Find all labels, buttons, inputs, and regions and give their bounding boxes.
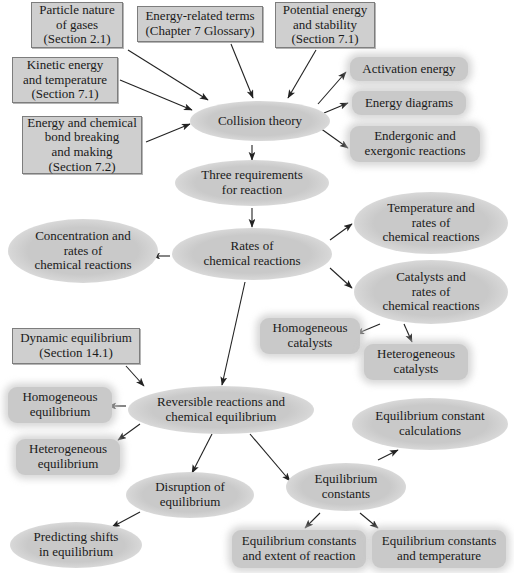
arrow-reversible_reactions-to-disruption_equilibrium: [192, 434, 212, 473]
arrow-equilibrium_constants-to-constants_extent: [305, 513, 320, 528]
node-collision_theory[interactable]: Collision theory: [190, 101, 330, 141]
node-three_requirements[interactable]: Three requirementsfor reaction: [175, 160, 329, 206]
node-catalysts_rates[interactable]: Catalysts andrates ofchemical reactions: [354, 260, 508, 324]
node-predicting_shifts[interactable]: Predicting shiftsin equilibrium: [10, 522, 142, 568]
arrow-energy_terms-to-collision_theory: [231, 44, 253, 98]
node-label: Homogeneousequilibrium: [18, 390, 101, 419]
node-endergonic_exergonic[interactable]: Endergonic andexergonic reactions: [350, 126, 480, 162]
node-label: Rates ofchemical reactions: [199, 239, 304, 268]
node-particle_nature[interactable]: Particle natureof gases(Section 2.1): [31, 2, 123, 48]
concept-map-diagram: Particle natureof gases(Section 2.1)Ener…: [0, 0, 514, 573]
node-activation_energy[interactable]: Activation energy: [350, 57, 468, 81]
arrow-collision_theory-to-activation_energy: [318, 72, 346, 104]
arrow-kinetic_energy-to-collision_theory: [120, 80, 192, 110]
node-temperature_rates[interactable]: Temperature andrates ofchemical reaction…: [354, 192, 508, 254]
node-label: Equilibrium constantsand temperature: [378, 534, 500, 563]
node-label: Activation energy: [358, 62, 459, 77]
node-label: Homogeneouscatalysts: [268, 321, 351, 350]
node-concentration_rates[interactable]: Concentration andrates ofchemical reacti…: [8, 219, 158, 283]
node-label: Temperature andrates ofchemical reaction…: [378, 201, 483, 245]
node-label: Endergonic andexergonic reactions: [360, 129, 469, 158]
arrow-reversible_reactions-to-heterogeneous_equilibrium: [118, 424, 140, 440]
node-label: Equilibriumconstants: [311, 472, 382, 501]
arrow-disruption_equilibrium-to-predicting_shifts: [112, 512, 140, 527]
node-label: Three requirementsfor reaction: [197, 168, 306, 197]
arrow-reversible_reactions-to-equilibrium_constants: [250, 434, 290, 481]
node-label: Energy-related terms(Chapter 7 Glossary): [141, 9, 258, 38]
node-label: Equilibrium constantsand extent of react…: [238, 534, 360, 563]
node-label: Energy and chemicalbond breakingand maki…: [23, 116, 141, 174]
node-constants_extent[interactable]: Equilibrium constantsand extent of react…: [232, 530, 366, 568]
node-label: Disruption ofequilibrium: [151, 480, 229, 509]
node-label: Reversible reactions andchemical equilib…: [153, 395, 289, 424]
node-label: Energy diagrams: [361, 96, 457, 111]
arrow-equilibrium_constants-to-constants_temperature: [360, 513, 378, 528]
node-label: Potential energyand stability(Section 7.…: [279, 3, 372, 47]
arrow-catalysts_rates-to-heterogeneous_catalysts: [404, 324, 412, 342]
node-label: Equilibrium constantcalculations: [371, 409, 488, 438]
node-label: Heterogeneousequilibrium: [25, 442, 111, 471]
arrow-collision_theory-to-energy_diagrams: [324, 103, 348, 113]
node-reversible_reactions[interactable]: Reversible reactions andchemical equilib…: [128, 386, 314, 434]
node-disruption_equilibrium[interactable]: Disruption ofequilibrium: [126, 472, 254, 518]
node-label: Concentration andrates ofchemical reacti…: [30, 229, 135, 273]
arrow-collision_theory-to-endergonic_exergonic: [320, 128, 348, 148]
node-constants_temperature[interactable]: Equilibrium constantsand temperature: [372, 530, 506, 568]
node-energy_bond[interactable]: Energy and chemicalbond breakingand maki…: [22, 116, 142, 174]
node-label: Particle natureof gases(Section 2.1): [35, 3, 118, 47]
node-equilibrium_constants[interactable]: Equilibriumconstants: [286, 463, 406, 511]
arrow-particle_nature-to-collision_theory: [128, 50, 208, 100]
arrow-rates_of_reactions-to-catalysts_rates: [330, 268, 352, 288]
node-label: Catalysts andrates ofchemical reactions: [378, 270, 483, 314]
node-kinetic_energy[interactable]: Kinetic energyand temperature(Section 7.…: [12, 57, 118, 103]
arrow-energy_bond-to-collision_theory: [146, 124, 190, 142]
node-heterogeneous_catalysts[interactable]: Heterogeneouscatalysts: [364, 344, 468, 380]
node-energy_terms[interactable]: Energy-related terms(Chapter 7 Glossary): [137, 6, 263, 42]
arrow-rates_of_reactions-to-reversible_reactions: [222, 282, 245, 385]
arrow-dynamic_equilibrium-to-reversible_reactions: [126, 366, 144, 386]
node-equilibrium_constant_calculations[interactable]: Equilibrium constantcalculations: [352, 398, 508, 450]
node-label: Predicting shiftsin equilibrium: [30, 530, 123, 559]
node-rates_of_reactions[interactable]: Rates ofchemical reactions: [172, 228, 332, 280]
node-label: Kinetic energyand temperature(Section 7.…: [19, 58, 111, 102]
node-energy_diagrams[interactable]: Energy diagrams: [352, 91, 466, 115]
node-heterogeneous_equilibrium[interactable]: Heterogeneousequilibrium: [16, 439, 120, 475]
arrow-equilibrium_constants-to-equilibrium_constant_calculations: [378, 450, 398, 460]
arrow-rates_of_reactions-to-temperature_rates: [330, 224, 352, 240]
node-dynamic_equilibrium[interactable]: Dynamic equilibrium(Section 14.1): [12, 328, 140, 364]
node-homogeneous_catalysts[interactable]: Homogeneouscatalysts: [260, 318, 360, 354]
arrow-potential_energy-to-collision_theory: [288, 50, 316, 98]
node-homogeneous_equilibrium[interactable]: Homogeneousequilibrium: [8, 387, 112, 423]
node-label: Dynamic equilibrium(Section 14.1): [16, 331, 136, 360]
node-potential_energy[interactable]: Potential energyand stability(Section 7.…: [275, 2, 375, 48]
node-label: Heterogeneouscatalysts: [373, 347, 459, 376]
node-label: Collision theory: [214, 114, 306, 129]
